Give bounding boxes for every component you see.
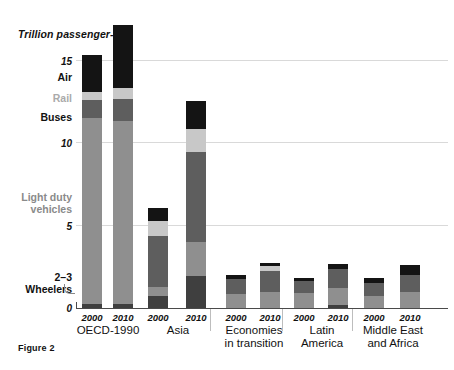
bar-segment-buses [226,279,246,294]
x-tick-year-label: 2000 [220,312,252,323]
bar-segment-buses [364,283,384,296]
x-axis-group-separator [352,309,353,331]
bar-segment-buses [148,236,168,287]
bar-segment-air [148,208,168,221]
bar-segment-air [186,101,206,130]
x-tick-year-label: 2000 [358,312,390,323]
bar-segment-rail [148,221,168,236]
bar-segment-rail [186,129,206,151]
y-axis-tick-labels: 051015 [0,20,72,308]
bar-segment-air [82,55,102,92]
x-axis-group-label: Middle East and Africa [342,324,444,350]
series-annotation-air: Air [57,72,72,84]
bar-segment-air [294,278,314,281]
x-axis-group-separator [210,309,211,331]
bar-segment-light-duty-vehicles [113,121,133,304]
bar-segment-air [113,25,133,88]
x-tick-year-label: 2000 [76,312,108,323]
bar-segment-buses [186,152,206,243]
series-annotation-buses: Buses [40,112,72,124]
bar-segment-air [364,278,384,284]
y-tick-label-10: 10 [61,138,72,149]
bar-segment-light-duty-vehicles [328,288,348,304]
bar-segment-light-duty-vehicles [82,118,102,304]
bar-segment-light-duty-vehicles [226,294,246,308]
y-tick-label-0: 0 [66,303,72,314]
bar-segment-rail [82,92,102,100]
bar-segment-rail [260,266,280,271]
bar-segment-rail [113,88,133,99]
bar-segment-light-duty-vehicles [148,287,168,296]
bar-segment-air [260,263,280,266]
bar-segment-buses [82,100,102,118]
bar-segment-air [400,265,420,275]
bar-segment-light-duty-vehicles [400,292,420,308]
bar-segment-air [328,264,348,268]
bar-segment-light-duty-vehicles [186,242,206,276]
x-axis-group-separator [282,309,283,331]
y-tick-label-15: 15 [61,56,72,67]
x-tick-year-label: 2000 [288,312,320,323]
figure-caption: Figure 2 [18,343,55,353]
leader-line [64,284,75,294]
plot-area [76,20,448,308]
bar-segment-buses [260,271,280,292]
bar-segment-light-duty-vehicles [260,292,280,308]
bar-segment-buses [113,99,133,121]
x-tick-year-label: 2010 [322,312,354,323]
bar-segment-light-duty-vehicles [294,293,314,308]
x-tick-year-label: 2000 [142,312,174,323]
x-tick-year-label: 2010 [107,312,139,323]
bar-segment-light-duty-vehicles [364,296,384,308]
x-tick-year-label: 2010 [394,312,426,323]
bar-segment-2-3-wheelers [82,304,102,308]
series-annotation-rail: Rail [53,93,72,105]
y-axis-stub [76,302,77,309]
bar-segment-air [226,275,246,279]
bar-segment-2-3-wheelers [186,276,206,308]
bar-segment-buses [328,269,348,289]
bar-segment-2-3-wheelers [148,296,168,308]
series-annotation-light-duty-vehicles: Light duty vehicles [21,192,72,215]
bar-segment-buses [400,275,420,292]
y-tick-label-5: 5 [66,221,72,232]
x-tick-year-label: 2010 [180,312,212,323]
figure-container: Trillion passenger-km 051015 Figure 2 20… [0,0,454,370]
bar-segment-2-3-wheelers [328,305,348,308]
bar-segment-buses [294,281,314,293]
bar-segment-2-3-wheelers [113,304,133,308]
